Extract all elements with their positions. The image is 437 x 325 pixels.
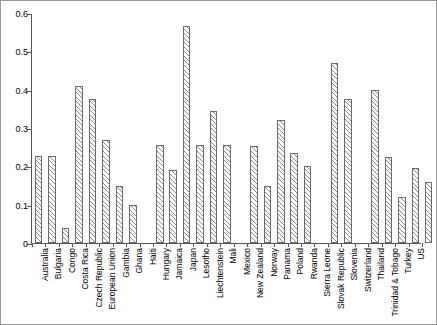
- x-axis-tick-label: Japan: [189, 248, 198, 271]
- y-axis-tick-label: 0.1: [15, 201, 28, 210]
- x-axis-tick-label: Liechtenstein: [216, 248, 225, 298]
- x-axis-tick-label: Mali: [229, 248, 238, 264]
- x-axis-tick-label: Slovak Republic: [337, 248, 346, 309]
- y-axis-tick-label: 0: [23, 240, 28, 249]
- x-axis-tick-label: Panama: [283, 248, 292, 280]
- x-axis-tick-label: Mexico: [243, 248, 252, 275]
- x-axis-tick-label: New Zealand: [256, 248, 265, 298]
- x-axis-tick-label: Sierra Leone: [323, 248, 332, 297]
- x-axis-tick-label: Lesotho: [202, 248, 211, 278]
- x-axis-tick: [422, 243, 423, 247]
- x-axis-tick-label: US: [417, 248, 426, 260]
- x-axis-tick-label: Trinidad & Tobago: [391, 248, 400, 317]
- y-axis-tick-label: 0.2: [15, 163, 28, 172]
- bar: [425, 182, 433, 243]
- y-axis-tick-label: 0.3: [15, 125, 28, 134]
- x-axis-labels: AustraliaBulgariaCongoCosta RicaCzech Re…: [31, 1, 421, 325]
- x-axis-tick-label: Slovenia: [350, 248, 359, 281]
- x-axis-tick-label: Haiti: [149, 248, 158, 265]
- x-axis-tick-label: Gambia: [122, 248, 131, 278]
- y-axis-tick-label: 0.4: [15, 86, 28, 95]
- x-axis-tick-label: Costa Rica: [81, 248, 90, 290]
- x-axis-tick-label: European Union: [108, 248, 117, 309]
- chart-figure: 00.10.20.30.40.50.6 AustraliaBulgariaCon…: [0, 0, 437, 325]
- x-axis-tick-label: Czech Republic: [95, 248, 104, 308]
- x-axis-tick-label: Poland: [296, 248, 305, 274]
- y-axis-tick-label: 0.5: [15, 48, 28, 57]
- x-axis-tick-label: Congo: [68, 248, 77, 273]
- x-axis-tick-label: Jamaica: [175, 248, 184, 280]
- x-axis-tick-label: Norway: [270, 248, 279, 277]
- x-axis-tick-label: Turkey: [404, 248, 413, 274]
- x-axis-tick-label: Bulgaria: [54, 248, 63, 279]
- x-axis-tick-label: Switzerland: [364, 248, 373, 292]
- x-axis-tick-label: Hungary: [162, 248, 171, 280]
- x-axis-tick-label: Rwanda: [310, 248, 319, 279]
- x-axis-tick-label: Thailand: [377, 248, 386, 281]
- x-axis-tick-label: Australia: [41, 248, 50, 281]
- x-axis-tick-label: Ghana: [135, 248, 144, 274]
- y-axis-tick-label: 0.6: [15, 10, 28, 19]
